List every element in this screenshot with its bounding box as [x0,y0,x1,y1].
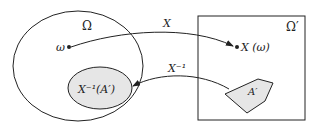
inverse-map-label: X⁻¹ [167,62,186,75]
sample-space-ellipse [13,11,143,121]
omega-point [67,45,71,49]
image-point-label: X (ω) [240,41,270,54]
target-space-label: Ω′ [286,20,299,34]
forward-map-arrow [71,32,233,47]
sample-space-label: Ω [82,19,92,33]
forward-map-label: X [162,17,172,30]
omega-label: ω [56,41,65,54]
inverse-map-arrow [133,76,229,89]
image-point [235,45,239,49]
preimage-label: X⁻¹(A′) [77,83,115,96]
set-label: A′ [247,86,258,97]
random-variable-diagram: Ω ω X⁻¹(A′) Ω′ X (ω) A′ X X⁻¹ [0,0,314,131]
